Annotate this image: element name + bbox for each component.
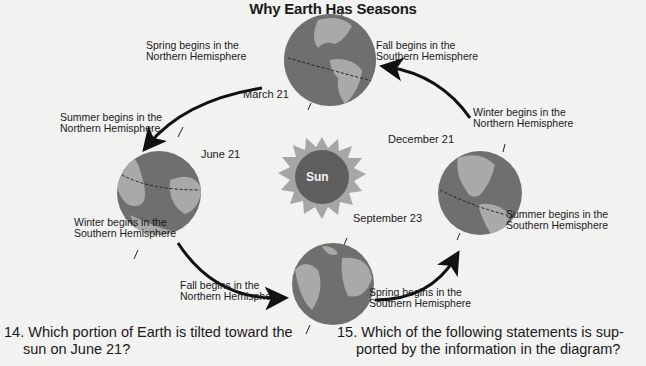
label-september-northern: Fall begins in the Northern Hemisphere [180,280,280,302]
label-june-southern: Winter begins in the Southern Hemisphere [74,217,176,239]
label-september-southern: Spring begins in the Southern Hemisphere [369,287,471,309]
label-march-southern-fall: Fall begins in the Southern Hemisphere [376,40,478,62]
label-december-southern: Summer begins in the Southern Hemisphere [506,209,608,231]
earth-march-21-icon [284,13,376,110]
sun-label: Sun [306,170,329,184]
label-march-northern: Spring begins in the Northern Hemisphere [146,40,246,62]
label-june-northern: Summer begins in the Northern Hemisphere [60,112,162,134]
date-march-21: March 21 [243,88,289,100]
question-14: 14. Which portion of Earth is tilted tow… [4,324,293,358]
date-september-23: September 23 [353,212,422,224]
date-december-21: December 21 [388,133,454,145]
label-december-northern: Winter begins in the Northern Hemisphere [473,107,573,129]
date-june-21: June 21 [201,148,240,160]
arrow-december-to-march [388,67,470,118]
question-15: 15. Which of the following statements is… [337,324,624,358]
earth-june-21-icon [117,127,202,259]
earth-september-23-icon [292,238,374,334]
